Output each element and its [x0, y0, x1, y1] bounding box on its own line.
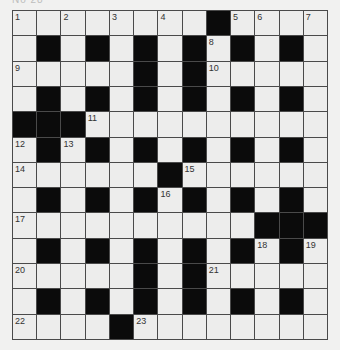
grid-cell[interactable]: [37, 264, 60, 288]
grid-cell[interactable]: [304, 264, 327, 288]
grid-cell[interactable]: [86, 11, 109, 35]
grid-cell[interactable]: 19: [304, 239, 327, 263]
grid-cell[interactable]: [255, 264, 278, 288]
grid-cell[interactable]: 5: [231, 11, 254, 35]
grid-cell[interactable]: [231, 315, 254, 339]
grid-cell[interactable]: [13, 289, 36, 313]
grid-cell[interactable]: [110, 239, 133, 263]
grid-cell[interactable]: [61, 264, 84, 288]
grid-cell[interactable]: [110, 62, 133, 86]
grid-cell[interactable]: [86, 315, 109, 339]
grid-cell[interactable]: [304, 315, 327, 339]
grid-cell[interactable]: [61, 315, 84, 339]
grid-cell[interactable]: [110, 138, 133, 162]
grid-cell[interactable]: [13, 87, 36, 111]
grid-cell[interactable]: [158, 62, 181, 86]
grid-cell[interactable]: [280, 315, 303, 339]
grid-cell[interactable]: [61, 239, 84, 263]
grid-cell[interactable]: 2: [61, 11, 84, 35]
grid-cell[interactable]: [37, 11, 60, 35]
grid-cell[interactable]: [37, 315, 60, 339]
grid-cell[interactable]: [13, 188, 36, 212]
grid-cell[interactable]: [134, 112, 157, 136]
grid-cell[interactable]: [280, 264, 303, 288]
grid-cell[interactable]: [158, 36, 181, 60]
grid-cell[interactable]: [255, 87, 278, 111]
grid-cell[interactable]: [158, 239, 181, 263]
grid-cell[interactable]: [231, 112, 254, 136]
grid-cell[interactable]: [134, 213, 157, 237]
grid-cell[interactable]: 14: [13, 163, 36, 187]
grid-cell[interactable]: [207, 315, 230, 339]
grid-cell[interactable]: [158, 138, 181, 162]
grid-cell[interactable]: [86, 163, 109, 187]
grid-cell[interactable]: [207, 112, 230, 136]
grid-cell[interactable]: [304, 112, 327, 136]
grid-cell[interactable]: [13, 239, 36, 263]
grid-cell[interactable]: [158, 264, 181, 288]
grid-cell[interactable]: [304, 36, 327, 60]
grid-cell[interactable]: 18: [255, 239, 278, 263]
grid-cell[interactable]: [255, 138, 278, 162]
grid-cell[interactable]: [110, 112, 133, 136]
grid-cell[interactable]: [304, 163, 327, 187]
grid-cell[interactable]: [110, 163, 133, 187]
grid-cell[interactable]: [37, 62, 60, 86]
grid-cell[interactable]: [61, 188, 84, 212]
grid-cell[interactable]: 7: [304, 11, 327, 35]
grid-cell[interactable]: 1: [13, 11, 36, 35]
grid-cell[interactable]: [255, 112, 278, 136]
grid-cell[interactable]: [304, 87, 327, 111]
grid-cell[interactable]: 9: [13, 62, 36, 86]
grid-cell[interactable]: 23: [134, 315, 157, 339]
grid-cell[interactable]: [110, 289, 133, 313]
grid-cell[interactable]: 21: [207, 264, 230, 288]
grid-cell[interactable]: [13, 36, 36, 60]
grid-cell[interactable]: 17: [13, 213, 36, 237]
grid-cell[interactable]: [61, 36, 84, 60]
grid-cell[interactable]: [280, 62, 303, 86]
grid-cell[interactable]: [255, 163, 278, 187]
grid-cell[interactable]: [255, 188, 278, 212]
grid-cell[interactable]: [158, 315, 181, 339]
grid-cell[interactable]: [207, 289, 230, 313]
grid-cell[interactable]: [207, 213, 230, 237]
grid-cell[interactable]: 16: [158, 188, 181, 212]
grid-cell[interactable]: [304, 188, 327, 212]
grid-cell[interactable]: [158, 213, 181, 237]
grid-cell[interactable]: [158, 112, 181, 136]
grid-cell[interactable]: [304, 138, 327, 162]
grid-cell[interactable]: [158, 87, 181, 111]
grid-cell[interactable]: [231, 62, 254, 86]
grid-cell[interactable]: [61, 62, 84, 86]
grid-cell[interactable]: 3: [110, 11, 133, 35]
grid-cell[interactable]: [61, 213, 84, 237]
grid-cell[interactable]: [110, 188, 133, 212]
grid-cell[interactable]: [61, 87, 84, 111]
grid-cell[interactable]: 20: [13, 264, 36, 288]
grid-cell[interactable]: [207, 87, 230, 111]
grid-cell[interactable]: [37, 163, 60, 187]
grid-cell[interactable]: [207, 239, 230, 263]
grid-cell[interactable]: [61, 289, 84, 313]
grid-cell[interactable]: [280, 163, 303, 187]
grid-cell[interactable]: 10: [207, 62, 230, 86]
grid-cell[interactable]: 8: [207, 36, 230, 60]
grid-cell[interactable]: [207, 163, 230, 187]
grid-cell[interactable]: [86, 213, 109, 237]
grid-cell[interactable]: [110, 36, 133, 60]
grid-cell[interactable]: 12: [13, 138, 36, 162]
grid-cell[interactable]: [110, 264, 133, 288]
grid-cell[interactable]: [110, 87, 133, 111]
grid-cell[interactable]: [255, 289, 278, 313]
grid-cell[interactable]: [231, 163, 254, 187]
grid-cell[interactable]: 6: [255, 11, 278, 35]
grid-cell[interactable]: 11: [86, 112, 109, 136]
grid-cell[interactable]: [280, 112, 303, 136]
grid-cell[interactable]: [61, 163, 84, 187]
grid-cell[interactable]: [134, 11, 157, 35]
grid-cell[interactable]: 4: [158, 11, 181, 35]
grid-cell[interactable]: [231, 213, 254, 237]
grid-cell[interactable]: [255, 36, 278, 60]
grid-cell[interactable]: [183, 112, 206, 136]
